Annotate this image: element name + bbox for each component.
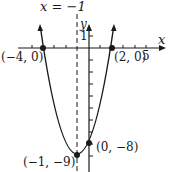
axis-sym-label: x = −1	[40, 0, 86, 14]
label-vertex: (−1, −9)	[23, 155, 75, 169]
label-neg4-0: (−4, 0)	[1, 50, 43, 64]
left-arrow-icon	[38, 24, 44, 31]
point-y-intercept	[86, 140, 92, 146]
x-axis-label: x	[158, 32, 166, 47]
parabola-graph: x = −1 x y 5 1 (−4, 0) (2, 0) (−1, −9) (…	[0, 0, 172, 172]
right-arrow-icon	[111, 24, 117, 31]
label-2-0: (2, 0)	[114, 50, 146, 64]
label-y-intercept: (0, −8)	[96, 140, 138, 154]
tick-label-1: 1	[80, 29, 88, 43]
